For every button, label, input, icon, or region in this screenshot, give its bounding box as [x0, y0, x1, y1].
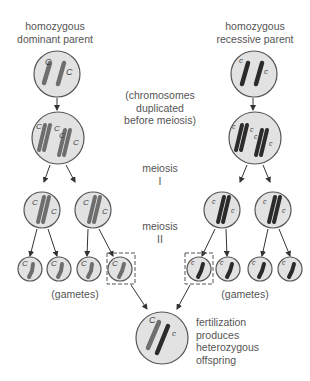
svg-text:C: C [32, 198, 38, 207]
svg-text:c: c [264, 67, 268, 76]
svg-text:C: C [73, 138, 79, 147]
svg-text:C: C [83, 198, 89, 207]
svg-text:C: C [51, 207, 57, 216]
svg-text:C: C [81, 259, 87, 268]
svg-text:C: C [51, 259, 57, 268]
svg-text:C: C [66, 67, 73, 77]
recessive-gamete-4: c [278, 257, 302, 281]
recessive-gamete-selected: c [185, 253, 213, 284]
svg-text:C: C [36, 122, 42, 131]
svg-text:c: c [250, 126, 254, 133]
heterozygous-offspring-cell: C c [136, 312, 188, 364]
svg-text:c: c [239, 56, 243, 65]
dominant-parent-cell: C C [34, 51, 80, 97]
recessive-meiosis1-cell-a: c c [204, 192, 240, 228]
dominant-gamete-1: C [18, 257, 42, 281]
dominant-meiosis1-cell-a: C C [24, 192, 60, 228]
svg-text:c: c [282, 259, 286, 266]
meiosis-diagram: C C C C C C C C C C C [0, 0, 310, 381]
svg-text:c: c [282, 207, 286, 214]
svg-text:c: c [212, 198, 216, 205]
svg-text:C: C [102, 207, 108, 216]
svg-text:C: C [112, 259, 118, 268]
svg-text:c: c [191, 259, 195, 266]
svg-text:c: c [231, 207, 235, 214]
svg-text:c: c [220, 259, 224, 266]
recessive-duplicated-cell: c c c c [229, 112, 281, 164]
dominant-duplicated-cell: C C C C [32, 112, 84, 164]
recessive-gamete-3: c [248, 257, 272, 281]
svg-text:c: c [232, 123, 236, 130]
recessive-meiosis1-cell-b: c c [255, 192, 291, 228]
dominant-gamete-3: C [77, 257, 101, 281]
recessive-gamete-2: c [216, 257, 240, 281]
svg-text:C: C [45, 57, 52, 67]
dominant-meiosis1-cell-b: C C [75, 192, 111, 228]
svg-text:c: c [263, 198, 267, 205]
dominant-gamete-2: C [47, 257, 71, 281]
svg-text:C: C [149, 315, 156, 325]
svg-text:C: C [59, 131, 65, 140]
recessive-parent-cell: c c [231, 51, 277, 97]
svg-text:c: c [269, 140, 273, 147]
dominant-gamete-selected: C [107, 253, 135, 284]
svg-text:c: c [254, 133, 258, 140]
svg-text:C: C [22, 259, 28, 268]
svg-text:c: c [172, 329, 176, 338]
svg-text:c: c [252, 259, 256, 266]
